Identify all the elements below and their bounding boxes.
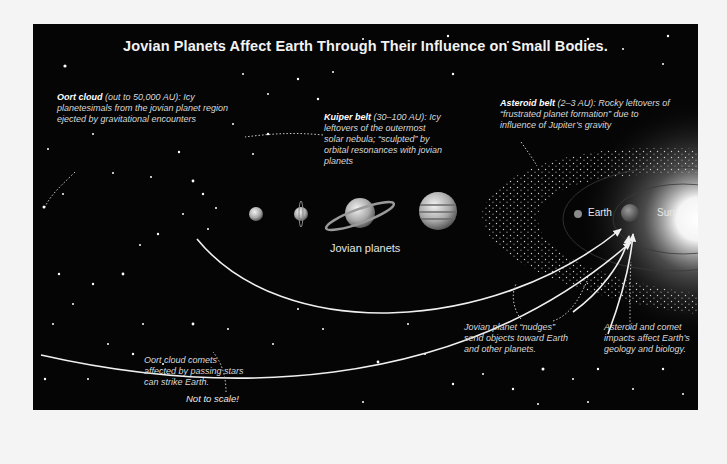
kuiper-belt-range: (30–100 AU): xyxy=(374,112,427,122)
earth-label: Earth xyxy=(588,207,612,218)
impacts-note: Asteroid and comet impacts affect Earth’… xyxy=(604,322,694,355)
asteroid-belt-range: (2–3 AU): xyxy=(558,98,596,108)
oort-comets-note: Oort cloud comets affected by passing st… xyxy=(144,355,244,388)
oort-leader xyxy=(45,172,75,207)
jupiter-icon xyxy=(419,192,457,230)
diagram-panel: Jovian Planets Affect Earth Through Thei… xyxy=(33,24,698,410)
oort-cloud-range: (out to 50,000 AU): xyxy=(105,92,181,102)
kuiper-belt-heading: Kuiper belt xyxy=(324,112,371,122)
oort-cloud-note: Oort cloud (out to 50,000 AU): Icy plane… xyxy=(57,92,237,125)
oort-cloud-heading: Oort cloud xyxy=(57,92,103,102)
scale-note: Not to scale! xyxy=(186,393,239,404)
saturn-icon xyxy=(324,197,396,235)
jovian-nudges-note: Jovian planet “nudges” send objects towa… xyxy=(464,322,574,355)
diagram-title: Jovian Planets Affect Earth Through Thei… xyxy=(33,38,698,54)
mars-icon xyxy=(574,210,582,218)
jovian-planets-label: Jovian planets xyxy=(330,242,400,254)
neptune-icon xyxy=(249,207,263,221)
kuiper-belt-note: Kuiper belt (30–100 AU): Icy leftovers o… xyxy=(324,112,444,167)
sun-label: Sun xyxy=(657,207,675,218)
uranus-icon xyxy=(294,201,308,227)
asteroid-belt-note: Asteroid belt (2–3 AU): Rocky leftovers … xyxy=(500,98,670,131)
earth-icon xyxy=(621,204,639,222)
asteroid-belt-heading: Asteroid belt xyxy=(500,98,555,108)
kuiper-leader xyxy=(245,134,323,137)
